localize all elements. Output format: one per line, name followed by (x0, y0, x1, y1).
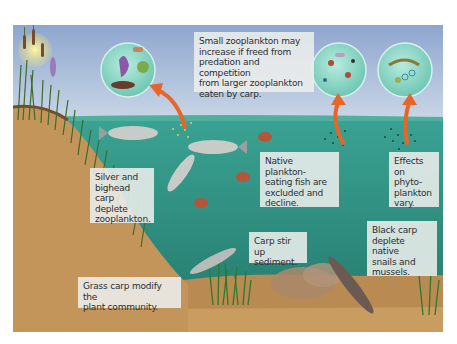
label-text: Carp stir up sediment. (254, 236, 302, 268)
label-silver-bighead-carp: Silver and bighead carp deplete zooplank… (90, 168, 154, 223)
label-grass-carp: Grass carp modify the plant community. (78, 277, 181, 308)
label-black-carp: Black carp deplete native snails and mus… (367, 221, 437, 276)
label-text: Small zooplankton may increase if freed … (199, 36, 309, 99)
label-small-zooplankton: Small zooplankton may increase if freed … (194, 32, 314, 92)
label-text: Grass carp modify the plant community. (83, 281, 176, 313)
label-sediment: Carp stir up sediment. (249, 232, 307, 263)
label-text: Native plankton- eating fish are exclude… (265, 156, 334, 209)
inset-small-zooplankton (312, 43, 366, 97)
inset-large-zooplankton (101, 43, 155, 97)
ecosystem-diagram: Small zooplankton may increase if freed … (13, 25, 443, 332)
label-text: Silver and bighead carp deplete zooplank… (95, 172, 149, 225)
label-text: Black carp deplete native snails and mus… (372, 225, 432, 278)
label-phytoplankton: Effects on phyto- plankton vary. (389, 152, 439, 207)
inset-phytoplankton (378, 43, 432, 97)
purple-flower (50, 57, 56, 77)
label-native-fish: Native plankton- eating fish are exclude… (260, 152, 339, 207)
label-text: Effects on phyto- plankton vary. (394, 156, 434, 209)
